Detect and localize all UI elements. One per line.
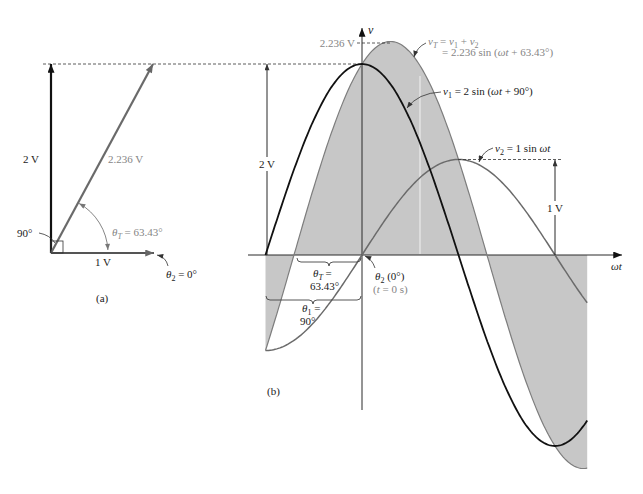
- text-segment: = 2.236 sin (: [442, 46, 498, 59]
- vT-peak-label: 2.236 V: [320, 37, 355, 49]
- phasor-v2-label: 1 V: [95, 256, 111, 268]
- text-segment: + 63.43°): [509, 46, 554, 59]
- horizontal-axis-label: ωt: [611, 260, 623, 272]
- theta-2-label: θ2 = 0°: [166, 268, 197, 283]
- text-segment: ωt: [539, 142, 551, 154]
- text-segment: (0°): [384, 270, 404, 283]
- phasor-figure: 2 V 2.236 V 90° θT = 63.43° 1 V θ2 = 0° …: [0, 0, 643, 494]
- text-segment: + 90°): [502, 85, 533, 98]
- theta-T-label-line2: 63.43°: [310, 280, 339, 292]
- theta-T-label: θT = 63.43°: [112, 226, 163, 241]
- text-segment: = 0 s): [380, 283, 408, 296]
- text-segment: = 1 sin: [504, 142, 540, 154]
- phasor-v1-label: 2 V: [23, 153, 39, 165]
- panel-a-caption: (a): [96, 292, 109, 305]
- phasor-vT-label: 2.236 V: [108, 153, 143, 165]
- v1-dimension-label: 2 V: [259, 158, 275, 170]
- text-segment: =: [311, 302, 320, 314]
- theta-T-brace: [297, 258, 361, 266]
- text-segment: =: [323, 267, 332, 279]
- text-segment: = 2 sin (: [452, 85, 492, 98]
- v2-dimension-label: 1 V: [547, 202, 563, 214]
- theta-2-pointer: [157, 255, 168, 266]
- panel-b-caption: (b): [267, 385, 280, 398]
- theta-T-angle-arc: [79, 203, 108, 250]
- text-segment: = 0°: [175, 268, 197, 280]
- vT-formula-line2: = 2.236 sin (ωt + 63.43°): [442, 46, 553, 59]
- theta-1-label-line2: 90°: [300, 315, 315, 327]
- time-zero-label: (t = 0 s): [373, 283, 408, 296]
- theta-2-origin-pointer: [365, 256, 375, 268]
- panel-b-waveforms: 2.236 V 2 V 1 V v ωt vT = v1 + v2 = 2.23…: [248, 23, 623, 469]
- text-segment: = 63.43°: [122, 226, 163, 238]
- v2-formula: v2 = 1 sin ωt: [495, 142, 551, 157]
- right-angle-label: 90°: [17, 227, 32, 239]
- panel-a-phasor-diagram: 2 V 2.236 V 90° θT = 63.43° 1 V θ2 = 0° …: [17, 64, 362, 305]
- vT-pointer: [414, 43, 426, 57]
- vertical-axis-label: v: [368, 23, 374, 37]
- right-angle-pointer: [39, 233, 55, 243]
- v1-formula: v1 = 2 sin (ωt + 90°): [443, 85, 533, 100]
